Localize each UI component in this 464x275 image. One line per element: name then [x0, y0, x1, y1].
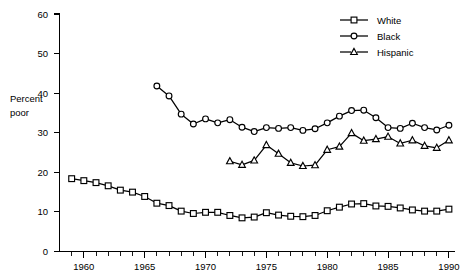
y-tick-label: 0 — [43, 246, 48, 257]
data-point-marker — [336, 113, 342, 119]
data-point-marker — [288, 125, 294, 131]
x-tick-label: 1960 — [73, 261, 94, 272]
x-tick-label: 1985 — [377, 261, 398, 272]
data-point-marker — [105, 183, 111, 189]
data-point-marker — [154, 200, 160, 206]
x-tick-label: 1975 — [256, 261, 277, 272]
data-point-marker — [227, 158, 234, 164]
data-point-marker — [446, 137, 453, 143]
y-axis-tick-labels: 0102030405060 — [37, 9, 48, 258]
data-point-marker — [178, 111, 184, 117]
data-point-marker — [348, 130, 355, 136]
chart-container: 0102030405060 19601965197019751980198519… — [0, 0, 464, 275]
data-point-marker — [410, 120, 416, 126]
data-point-marker — [275, 150, 282, 156]
y-tick-label: 30 — [37, 127, 48, 138]
series-hispanic — [227, 130, 453, 169]
data-point-marker — [361, 201, 367, 207]
y-tick-label: 10 — [37, 206, 48, 217]
legend-marker-circle — [351, 33, 357, 39]
data-point-marker — [215, 209, 221, 215]
legend-label: Hispanic — [377, 47, 414, 58]
data-point-marker — [276, 212, 282, 218]
data-point-marker — [288, 213, 294, 219]
data-point-marker — [81, 178, 87, 184]
data-point-marker — [227, 213, 233, 219]
data-point-marker — [385, 203, 391, 209]
x-axis-major-ticks — [84, 252, 449, 259]
series-black — [154, 83, 452, 134]
data-point-marker — [203, 116, 209, 122]
legend-marker-square — [351, 17, 357, 23]
x-axis: 1960196519701975198019851990 — [60, 252, 460, 273]
data-point-marker — [409, 137, 416, 143]
data-point-marker — [190, 121, 196, 127]
data-point-marker — [312, 213, 318, 219]
data-point-marker — [142, 194, 148, 200]
y-axis-label-line1: Percent — [10, 93, 43, 104]
data-point-marker — [300, 127, 306, 133]
y-axis: 0102030405060 — [37, 9, 59, 258]
data-point-marker — [349, 108, 355, 114]
data-point-marker — [130, 189, 136, 195]
data-point-marker — [263, 141, 270, 147]
data-point-marker — [373, 115, 379, 121]
data-point-marker — [397, 205, 403, 211]
series-line — [157, 86, 449, 132]
data-point-marker — [373, 203, 379, 209]
data-point-marker — [239, 124, 245, 130]
data-point-marker — [446, 206, 452, 212]
x-tick-label: 1980 — [317, 261, 338, 272]
x-tick-label: 1970 — [195, 261, 216, 272]
y-tick-label: 50 — [37, 48, 48, 59]
data-point-marker — [324, 208, 330, 214]
legend-label: Black — [377, 31, 400, 42]
legend-label: White — [377, 15, 401, 26]
x-tick-label: 1990 — [438, 261, 459, 272]
poverty-rate-line-chart: 0102030405060 19601965197019751980198519… — [0, 0, 464, 275]
x-axis-tick-labels: 1960196519701975198019851990 — [73, 261, 459, 272]
data-point-marker — [166, 203, 172, 209]
data-point-marker — [397, 125, 403, 131]
series-white — [69, 176, 452, 221]
data-point-marker — [117, 187, 123, 193]
legend-marker-triangle — [351, 48, 358, 54]
data-point-marker — [385, 125, 391, 131]
data-point-marker — [227, 117, 233, 123]
data-point-marker — [312, 126, 318, 132]
data-point-marker — [251, 129, 257, 135]
data-point-marker — [349, 201, 355, 207]
legend-item-black[interactable]: Black — [340, 31, 400, 42]
data-point-marker — [336, 204, 342, 210]
x-tick-label: 1965 — [134, 261, 155, 272]
data-point-marker — [239, 215, 245, 221]
data-point-marker — [300, 214, 306, 220]
data-point-marker — [215, 120, 221, 126]
data-point-marker — [276, 125, 282, 131]
y-axis-label-line2: poor — [10, 107, 29, 118]
data-point-marker — [324, 120, 330, 126]
data-point-marker — [446, 122, 452, 128]
y-axis-ticks — [54, 14, 60, 252]
legend-item-hispanic[interactable]: Hispanic — [340, 47, 414, 58]
data-point-marker — [385, 133, 392, 139]
y-tick-label: 20 — [37, 167, 48, 178]
data-point-marker — [434, 127, 440, 133]
data-point-marker — [410, 207, 416, 213]
data-point-marker — [287, 159, 294, 165]
y-tick-label: 60 — [37, 9, 48, 20]
x-axis-minor-ticks — [72, 252, 437, 257]
data-point-marker — [422, 125, 428, 131]
series-line — [72, 179, 449, 218]
data-point-marker — [263, 210, 269, 216]
data-point-marker — [93, 180, 99, 186]
data-point-marker — [190, 211, 196, 217]
data-point-marker — [154, 83, 160, 89]
data-point-marker — [263, 125, 269, 131]
data-point-marker — [361, 107, 367, 113]
data-point-marker — [69, 176, 75, 182]
data-point-marker — [251, 214, 257, 220]
data-point-marker — [434, 208, 440, 214]
legend-item-white[interactable]: White — [340, 15, 401, 26]
data-point-marker — [166, 93, 172, 99]
